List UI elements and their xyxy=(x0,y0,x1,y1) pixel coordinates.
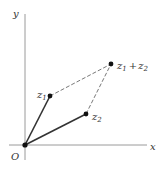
complex-addition-diagram: y x O z1 z2 z1+z2 xyxy=(0,0,163,169)
dashed-z1-to-sum xyxy=(50,64,111,96)
origin-point xyxy=(22,142,27,147)
x-axis-label: x xyxy=(150,141,156,152)
sum-label: z1+z2 xyxy=(116,60,148,73)
y-axis-label: y xyxy=(12,8,19,19)
vector-z2 xyxy=(25,114,86,145)
point-z1 xyxy=(48,94,53,99)
point-sum xyxy=(109,62,114,67)
point-z2 xyxy=(84,112,89,117)
vector-z1 xyxy=(25,96,50,145)
z2-label: z2 xyxy=(91,111,102,124)
z1-label: z1 xyxy=(36,89,47,102)
origin-label: O xyxy=(11,151,19,162)
dashed-z2-to-sum xyxy=(86,64,111,114)
